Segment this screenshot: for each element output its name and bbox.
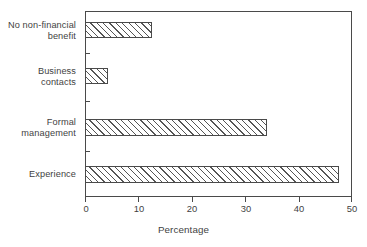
ycat-label-business-contacts: Business contacts — [38, 66, 76, 87]
x-tick-label-30: 30 — [241, 203, 251, 214]
x-tick-50 — [351, 197, 352, 202]
x-tick-0 — [85, 197, 86, 202]
x-tick-label-50: 50 — [347, 203, 357, 214]
ycat-label-formal-management: Formal management — [21, 117, 76, 138]
bar-experience — [85, 166, 339, 183]
bar-formal-management — [85, 119, 267, 136]
bar-chart: No non-financial benefit Business contac… — [0, 0, 367, 247]
x-tick-label-20: 20 — [187, 203, 197, 214]
y-tick-2 — [85, 101, 90, 102]
x-tick-30 — [245, 197, 246, 202]
ycat-label-experience: Experience — [29, 169, 76, 180]
x-tick-label-10: 10 — [134, 203, 144, 214]
x-tick-10 — [138, 197, 139, 202]
x-tick-20 — [192, 197, 193, 202]
x-tick-label-0: 0 — [83, 203, 88, 214]
ycat-label-no-non-financial-benefit: No non-financial benefit — [8, 20, 76, 41]
x-tick-40 — [299, 197, 300, 202]
y-tick-3 — [85, 151, 90, 152]
bar-no-non-financial-benefit — [85, 22, 152, 38]
x-axis-title: Percentage — [0, 224, 367, 235]
x-tick-label-40: 40 — [294, 203, 304, 214]
bar-business-contacts — [85, 68, 108, 84]
y-tick-1 — [85, 53, 90, 54]
